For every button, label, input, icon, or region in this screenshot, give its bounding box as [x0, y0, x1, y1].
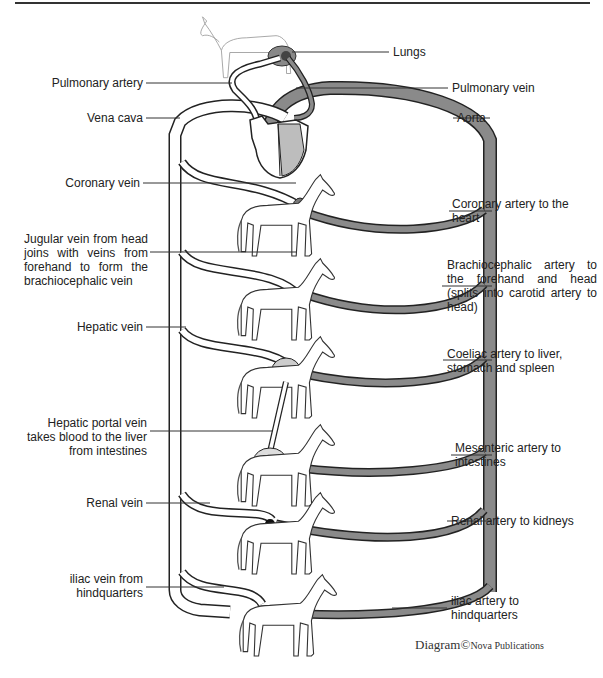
diagram-credit: Diagram©Nova Publications [415, 637, 544, 653]
label-jugular-vein: Jugular vein from head joins with veins … [24, 232, 148, 288]
label-brachiocephalic-artery: Brachiocephalic artery to the forehand a… [447, 258, 597, 314]
label-mesenteric-artery: Mesenteric artery to intestines [455, 441, 565, 469]
label-coronary-artery: Coronary artery to the heart [452, 197, 582, 225]
label-coronary-vein: Coronary vein [40, 176, 140, 190]
copyright-symbol: © [460, 637, 470, 652]
label-pulmonary-artery: Pulmonary artery [50, 76, 143, 90]
credit-publisher: Nova Publications [470, 640, 544, 651]
label-hepatic-vein: Hepatic vein [50, 320, 143, 334]
label-iliac-vein: iliac vein from hindquarters [50, 572, 143, 600]
label-renal-artery: Renal artery to kidneys [451, 514, 574, 528]
label-coeliac-artery: Coeliac artery to liver, stomach and spl… [447, 347, 582, 375]
label-renal-vein: Renal vein [50, 496, 143, 510]
label-iliac-artery: iliac artery to hindquarters [451, 594, 551, 622]
label-hepatic-portal-vein: Hepatic portal vein takes blood to the l… [20, 416, 147, 458]
heart-icon [250, 116, 308, 178]
credit-main: Diagram [415, 637, 460, 652]
label-pulmonary-vein: Pulmonary vein [452, 81, 535, 95]
label-lungs: Lungs [393, 45, 426, 59]
label-vena-cava: Vena cava [60, 111, 143, 125]
label-aorta: Aorta [457, 111, 486, 125]
